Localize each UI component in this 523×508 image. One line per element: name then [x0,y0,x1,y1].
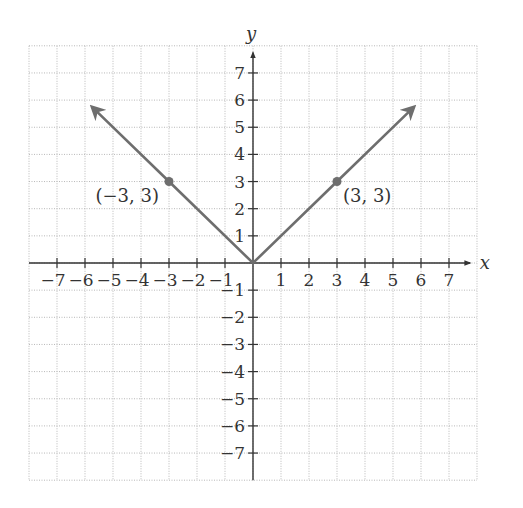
y-tick-label: −5 [220,389,245,409]
y-tick-label: 4 [234,144,245,164]
graph-canvas: −7−6−5−4−3−2−11234567−7−6−5−4−3−2−112345… [0,0,523,508]
x-tick-label: −7 [40,270,65,290]
x-tick-label: −3 [152,270,177,290]
point-marker [165,177,174,186]
x-tick-label: −4 [124,270,149,290]
y-tick-label: 5 [234,117,245,137]
x-tick-label: 7 [444,270,455,290]
y-tick-label: 3 [234,172,245,192]
x-tick-label: −2 [180,270,205,290]
y-tick-label: −7 [220,443,245,463]
x-tick-label: 2 [304,270,315,290]
x-tick-label: 3 [332,270,343,290]
x-axis-label: x [480,252,490,273]
y-tick-label: −6 [220,416,245,436]
y-tick-label: −3 [220,334,245,354]
y-tick-label: −2 [220,307,245,327]
point-label: (3, 3) [343,185,391,206]
y-tick-label: 2 [234,199,245,219]
point-label: (−3, 3) [96,185,159,206]
y-tick-label: 7 [234,63,245,83]
y-tick-label: −4 [220,362,245,382]
x-tick-label: −6 [68,270,93,290]
point-marker [333,177,342,186]
x-tick-label: 1 [276,270,287,290]
coordinate-plane: −7−6−5−4−3−2−11234567−7−6−5−4−3−2−112345… [0,0,523,508]
y-tick-label: 1 [234,226,245,246]
x-tick-label: 4 [360,270,371,290]
y-tick-label: −1 [220,280,245,300]
y-tick-label: 6 [234,90,245,110]
x-tick-label: −5 [96,270,121,290]
x-tick-label: 5 [388,270,399,290]
y-axis-label: y [245,23,257,44]
x-tick-label: 6 [416,270,427,290]
